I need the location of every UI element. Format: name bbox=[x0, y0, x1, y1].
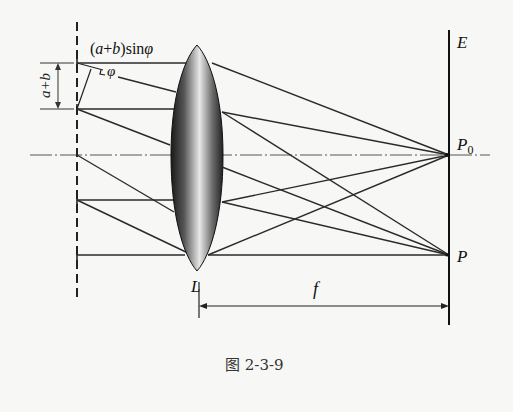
path-difference-construction bbox=[77, 63, 105, 109]
center-focus-point bbox=[445, 153, 449, 157]
angle-phi-label: φ bbox=[107, 63, 115, 79]
center-point-label: P0 bbox=[456, 135, 473, 157]
point-label: P bbox=[456, 247, 467, 266]
grating-constant-label: a+b bbox=[37, 72, 53, 98]
focus-point bbox=[445, 253, 448, 256]
focal-length-label: f bbox=[313, 279, 321, 299]
path-difference-label: (a+b)sinφ bbox=[90, 40, 153, 58]
figure-caption: 图 2-3-9 bbox=[225, 356, 284, 374]
focal-length-dimension bbox=[199, 282, 449, 318]
screen-label: E bbox=[456, 33, 468, 52]
grating-diffraction-diagram: a+b (a+b)sinφ φ L E bbox=[0, 0, 513, 412]
lens bbox=[171, 45, 223, 271]
rays-after-lens bbox=[208, 63, 449, 255]
